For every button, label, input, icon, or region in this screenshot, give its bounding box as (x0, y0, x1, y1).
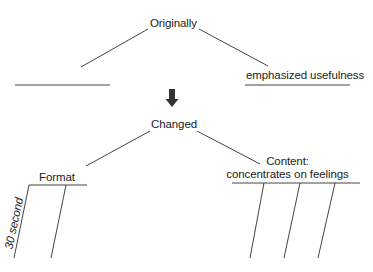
originally-right-branch (199, 29, 268, 66)
content-label: Content: concentrates on feelings (225, 155, 350, 181)
emphasized-usefulness-label: emphasized usefulness (246, 69, 364, 82)
content-subline-1 (250, 183, 264, 258)
content-subline-2 (284, 183, 300, 258)
content-subline-3 (318, 183, 335, 258)
content-label-line1: Content: (225, 155, 350, 168)
format-label: Format (39, 171, 75, 184)
changed-label: Changed (151, 118, 197, 131)
down-arrow-icon (166, 89, 179, 107)
originally-label: Originally (150, 17, 197, 30)
format-subline-2 (51, 185, 66, 258)
changed-left-branch (86, 131, 150, 166)
content-label-line2: concentrates on feelings (225, 168, 350, 181)
diagram-lines (0, 0, 373, 272)
originally-left-branch (81, 29, 148, 67)
